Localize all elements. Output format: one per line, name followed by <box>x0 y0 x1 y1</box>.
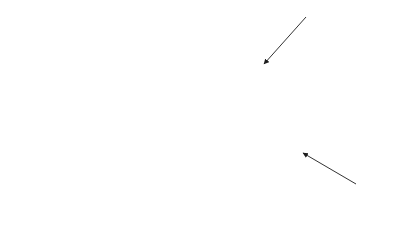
sector-leader-line <box>303 153 356 184</box>
leader-lines <box>264 17 356 184</box>
track-leader-line <box>264 17 306 64</box>
disk-geometry-figure <box>0 0 402 244</box>
